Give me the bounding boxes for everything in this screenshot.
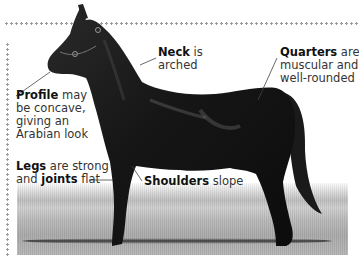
leader-line-shoulders — [132, 166, 142, 181]
label-shoulders-term: Shoulders — [144, 174, 209, 188]
label-neck: Neck is arched — [158, 46, 203, 72]
label-legs: Legs are strong and joints flat — [16, 160, 109, 186]
label-legs-line2-pre: and — [16, 172, 41, 186]
label-profile-term: Profile — [16, 88, 58, 102]
leader-line-neck — [140, 58, 156, 65]
label-shoulders: Shoulders slope — [144, 175, 243, 188]
horse-anatomy-figure: Neck is arched Quarters are muscular and… — [0, 0, 359, 270]
label-legs-line2-post: flat — [78, 172, 100, 186]
label-profile: Profile may be concave, giving an Arabia… — [16, 89, 88, 141]
label-shoulders-text: slope — [209, 174, 243, 188]
label-legs-term: Legs — [16, 159, 46, 173]
label-quarters-term: Quarters — [280, 45, 337, 59]
label-profile-line4: Arabian look — [16, 128, 88, 141]
label-joints-term: joints — [41, 172, 77, 186]
label-quarters-line3: well-rounded — [280, 72, 359, 85]
label-legs-text: are strong — [46, 159, 109, 173]
label-profile-text: may — [58, 88, 87, 102]
label-neck-line2: arched — [158, 59, 203, 72]
label-quarters: Quarters are muscular and well-rounded — [280, 46, 359, 85]
label-neck-term: Neck — [158, 45, 190, 59]
label-quarters-text: are — [337, 45, 359, 59]
label-neck-text: is — [190, 45, 203, 59]
